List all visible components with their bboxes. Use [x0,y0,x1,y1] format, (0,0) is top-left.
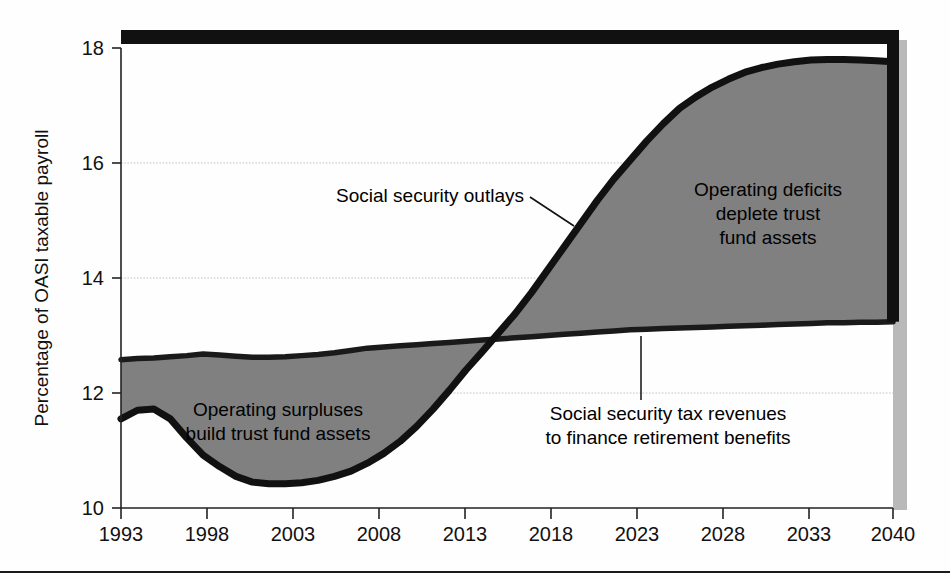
right-frame-band [887,30,899,322]
x-tick-label-1993: 1993 [99,523,144,545]
annotation-deficits-line3: fund assets [719,227,816,248]
x-tick-label-2003: 2003 [271,523,316,545]
y-tick-label-14: 14 [82,267,104,289]
social-security-area-chart: 10 12 14 16 18 1993 1998 2003 2008 2013 … [0,0,950,581]
x-tick-label-2013: 2013 [443,523,488,545]
x-tick-label-2008: 2008 [357,523,402,545]
annotation-revenues-line1: Social security tax revenues [550,403,787,424]
y-tick-label-18: 18 [82,37,104,59]
annotation-deficits-line2: deplete trust [716,203,821,224]
x-tick-label-2033: 2033 [787,523,832,545]
chart-figure: 10 12 14 16 18 1993 1998 2003 2008 2013 … [0,0,950,581]
y-tick-label-16: 16 [82,152,104,174]
y-tick-label-10: 10 [82,497,104,519]
annotation-surpluses-line1: Operating surpluses [193,399,363,420]
x-tick-label-2040: 2040 [871,523,916,545]
x-tick-label-2028: 2028 [701,523,746,545]
x-tick-label-1998: 1998 [185,523,230,545]
annotation-deficits-line1: Operating deficits [694,179,842,200]
x-tick-label-2018: 2018 [529,523,574,545]
top-frame-band [121,30,899,44]
annotation-surpluses-line2: build trust fund assets [186,423,371,444]
y-tick-label-12: 12 [82,382,104,404]
y-axis-title: Percentage of OASI taxable payroll [31,130,52,427]
x-tick-label-2023: 2023 [615,523,660,545]
annotation-revenues-line2: to finance retirement benefits [545,427,790,448]
annotation-outlays-label: Social security outlays [336,185,524,206]
